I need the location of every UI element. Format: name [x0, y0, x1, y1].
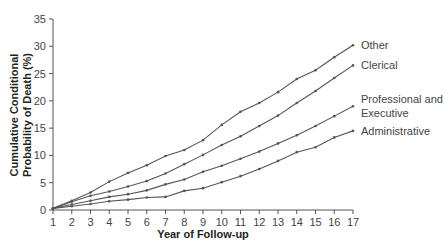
data-point — [183, 163, 186, 166]
data-point — [183, 178, 186, 181]
data-point — [295, 134, 298, 137]
data-point — [333, 136, 336, 139]
series-line-professional-and-executive — [53, 106, 353, 208]
series-label: Other — [361, 39, 389, 51]
data-point — [89, 199, 92, 202]
data-point — [183, 190, 186, 193]
data-point — [89, 191, 92, 194]
data-point — [164, 172, 167, 175]
data-point — [295, 78, 298, 81]
data-point — [108, 180, 111, 183]
data-point — [164, 183, 167, 186]
data-point — [108, 196, 111, 199]
y-tick-label: 25 — [34, 68, 46, 80]
x-tick-label: 8 — [181, 216, 187, 228]
data-point — [202, 154, 205, 157]
data-point — [145, 189, 148, 192]
x-tick-label: 12 — [253, 216, 265, 228]
y-axis-title: Cumulative ConditionalProbability of Dea… — [8, 53, 33, 177]
data-point — [258, 125, 261, 128]
series-label: Clerical — [361, 59, 398, 71]
y-axis-title-line: Cumulative Conditional — [8, 54, 20, 177]
data-point — [239, 157, 242, 160]
y-tick-label: 15 — [34, 122, 46, 134]
data-point — [145, 164, 148, 167]
data-point — [127, 198, 130, 201]
data-point — [352, 44, 355, 47]
series-labels: OtherClericalProfessional andExecutiveAd… — [361, 39, 443, 137]
data-point — [164, 155, 167, 158]
x-tick-label: 2 — [69, 216, 75, 228]
data-point — [333, 56, 336, 59]
x-tick-label: 13 — [272, 216, 284, 228]
data-point — [258, 168, 261, 171]
data-point — [314, 69, 317, 72]
data-point — [314, 146, 317, 149]
data-point — [239, 135, 242, 138]
data-point — [258, 150, 261, 153]
data-point — [352, 130, 355, 133]
y-tick-label: 20 — [34, 95, 46, 107]
data-point — [277, 91, 280, 94]
data-point — [220, 181, 223, 184]
data-point — [145, 180, 148, 183]
line-chart: 051015202530351234567891011121314151617 … — [0, 0, 445, 245]
data-point — [127, 193, 130, 196]
data-point — [258, 102, 261, 105]
data-point — [70, 201, 73, 204]
series-label: Professional and — [361, 93, 443, 105]
data-point — [277, 114, 280, 117]
x-tick-label: 6 — [144, 216, 150, 228]
data-point — [70, 205, 73, 208]
x-axis-title: Year of Follow-up — [157, 228, 249, 240]
data-point — [108, 190, 111, 193]
data-point — [52, 207, 55, 210]
x-tick-label: 9 — [200, 216, 206, 228]
x-tick-label: 11 — [235, 216, 246, 228]
data-point — [277, 142, 280, 145]
data-point — [108, 200, 111, 203]
x-tick-label: 7 — [162, 216, 168, 228]
x-tick-label: 14 — [291, 216, 303, 228]
data-point — [164, 196, 167, 199]
x-tick-label: 16 — [328, 216, 340, 228]
data-point — [314, 125, 317, 128]
data-point — [89, 203, 92, 206]
data-point — [127, 172, 130, 175]
series-label: Administrative — [361, 125, 430, 137]
data-point — [239, 175, 242, 178]
series-line-administrative — [53, 131, 353, 208]
data-point — [127, 185, 130, 188]
y-tick-label: 30 — [34, 40, 46, 52]
data-point — [202, 187, 205, 190]
data-point — [89, 195, 92, 198]
y-tick-label: 0 — [40, 204, 46, 216]
y-tick-label: 5 — [40, 177, 46, 189]
x-tick-label: 1 — [50, 216, 56, 228]
data-point — [333, 77, 336, 80]
data-point — [220, 144, 223, 147]
x-tick-label: 5 — [125, 216, 131, 228]
x-tick-label: 3 — [87, 216, 93, 228]
data-point — [183, 149, 186, 152]
data-point — [352, 105, 355, 108]
data-point — [239, 110, 242, 113]
data-point — [202, 171, 205, 174]
data-point — [295, 102, 298, 105]
y-tick-label: 35 — [34, 13, 46, 25]
data-point — [202, 139, 205, 142]
y-axis-title-line: Probability of Death (%) — [21, 53, 33, 177]
data-point — [220, 164, 223, 167]
x-tick-label: 10 — [216, 216, 228, 228]
x-tick-label: 17 — [347, 216, 359, 228]
series-label: Executive — [361, 107, 409, 119]
data-point — [295, 151, 298, 154]
data-point — [333, 115, 336, 118]
x-tick-label: 15 — [309, 216, 321, 228]
data-point — [220, 124, 223, 127]
y-tick-label: 10 — [34, 149, 46, 161]
data-point — [277, 160, 280, 163]
series-lines — [52, 44, 355, 210]
x-tick-label: 4 — [106, 216, 112, 228]
data-point — [145, 196, 148, 199]
